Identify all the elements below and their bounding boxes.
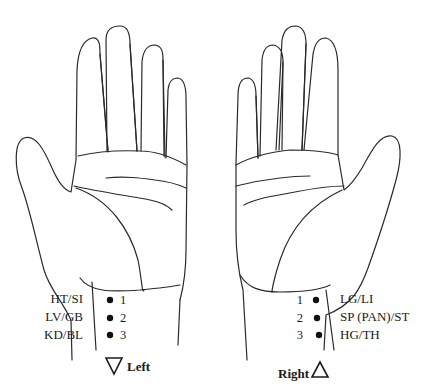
down-triangle-icon — [106, 358, 122, 374]
right-position-2-number: 2 — [297, 311, 303, 325]
left-position-3-dot — [107, 332, 113, 338]
left-position-1-dot — [107, 297, 113, 303]
left-finger-base-crease — [78, 151, 186, 165]
hands-pulse-diagram: HT/SI LV/GB KD/BL 1 2 3 Left 1 2 3 LG/LI… — [0, 0, 436, 392]
left-side-label: Left — [127, 359, 151, 374]
right-side-label: Right — [278, 366, 310, 381]
right-pulse-positions: 1 2 3 LG/LI SP (PAN)/ST HG/TH Right — [278, 291, 410, 381]
left-position-2-dot — [107, 315, 113, 321]
right-position-1-label: LG/LI — [340, 291, 373, 306]
right-finger-base-crease — [236, 150, 338, 165]
left-position-2-label: LV/GB — [45, 309, 83, 324]
left-hand-drawing — [16, 26, 187, 360]
right-position-3-dot — [316, 332, 322, 338]
right-position-2-dot — [314, 315, 320, 321]
right-position-1-dot — [313, 297, 319, 303]
right-position-2-label: SP (PAN)/ST — [340, 309, 410, 324]
left-position-1-number: 1 — [120, 293, 126, 307]
right-position-3-label: HG/TH — [340, 327, 380, 342]
right-position-3-number: 3 — [297, 328, 303, 342]
left-position-1-label: HT/SI — [51, 291, 84, 306]
left-position-2-number: 2 — [120, 311, 126, 325]
left-position-3-number: 3 — [120, 328, 126, 342]
right-position-1-number: 1 — [297, 293, 303, 307]
left-position-3-label: KD/BL — [44, 327, 83, 342]
up-triangle-icon — [312, 362, 328, 377]
left-pulse-positions: HT/SI LV/GB KD/BL 1 2 3 Left — [44, 291, 151, 374]
